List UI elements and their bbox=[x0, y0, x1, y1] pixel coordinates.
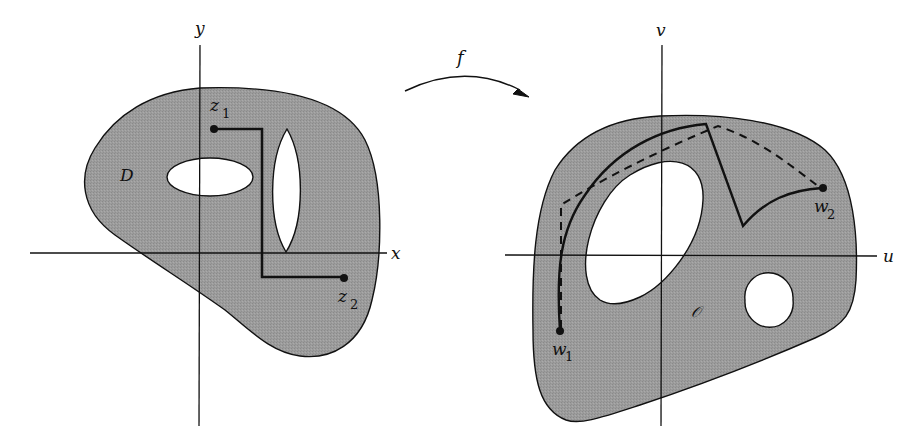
arrow-curve bbox=[405, 76, 520, 91]
w2-subscript: 2 bbox=[827, 207, 835, 222]
mapping-arrow: f bbox=[405, 47, 529, 97]
point-z1 bbox=[210, 125, 218, 133]
v-axis-label: v bbox=[656, 20, 666, 40]
y-axis-label: y bbox=[194, 18, 205, 38]
point-z2 bbox=[340, 274, 348, 282]
arrowhead-icon bbox=[513, 89, 529, 97]
diagram-canvas: y x D z 1 z 2 f v u 𝒪 w bbox=[0, 0, 921, 444]
z2-subscript: 2 bbox=[350, 297, 358, 312]
z1-subscript: 1 bbox=[222, 106, 230, 121]
region-o bbox=[533, 115, 857, 421]
x-axis-label: x bbox=[391, 243, 401, 263]
w1-subscript: 1 bbox=[565, 349, 573, 364]
z1-label: z bbox=[209, 95, 220, 115]
point-w1 bbox=[556, 327, 564, 335]
right-plane: v u 𝒪 w 1 w 2 bbox=[505, 20, 894, 426]
mapping-label: f bbox=[455, 47, 467, 68]
u-axis-label: u bbox=[883, 246, 894, 266]
z2-label: z bbox=[337, 286, 348, 306]
region-d-label: D bbox=[119, 165, 134, 185]
left-plane: y x D z 1 z 2 bbox=[30, 18, 401, 426]
point-w2 bbox=[819, 184, 827, 192]
